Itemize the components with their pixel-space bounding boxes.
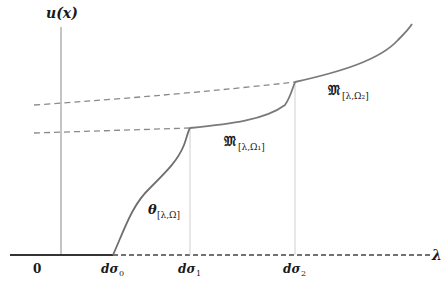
m2-curve xyxy=(295,24,412,82)
tick-dsigma0: dσ 0 xyxy=(101,262,124,278)
svg-text:[λ,Ω]: [λ,Ω] xyxy=(157,210,180,220)
svg-text:[λ,Ω₂]: [λ,Ω₂] xyxy=(342,91,369,101)
tick-dsigma1: dσ 1 xyxy=(178,262,201,278)
m1-curve xyxy=(190,82,295,128)
theta-label: θ [λ,Ω] xyxy=(148,202,180,220)
tick-0: 0 xyxy=(33,262,41,276)
tick-dsigma2: dσ 2 xyxy=(283,262,306,278)
theta-curve xyxy=(113,128,190,255)
svg-text:dσ: dσ xyxy=(283,262,300,276)
m1-label: 𝔐 [λ,Ω₁] xyxy=(224,134,265,152)
dashed-extension-m2 xyxy=(34,82,295,105)
dashed-extension-m1 xyxy=(34,128,190,133)
svg-text:1: 1 xyxy=(196,269,201,278)
svg-text:dσ: dσ xyxy=(101,262,118,276)
svg-text:θ: θ xyxy=(148,202,157,217)
m2-label: 𝔐 [λ,Ω₂] xyxy=(328,83,369,101)
svg-text:𝔐: 𝔐 xyxy=(328,83,341,98)
y-axis-label: u(x) xyxy=(46,5,78,21)
svg-text:dσ: dσ xyxy=(178,262,195,276)
svg-text:2: 2 xyxy=(301,269,306,278)
svg-text:𝔐: 𝔐 xyxy=(224,134,237,149)
svg-text:[λ,Ω₁]: [λ,Ω₁] xyxy=(238,142,265,152)
x-axis-label: λ xyxy=(431,247,442,263)
svg-text:0: 0 xyxy=(119,269,124,278)
diagram: u(x) λ θ [λ,Ω] 𝔐 [λ,Ω₁] 𝔐 [λ,Ω₂] 0 dσ 0 … xyxy=(0,0,446,287)
